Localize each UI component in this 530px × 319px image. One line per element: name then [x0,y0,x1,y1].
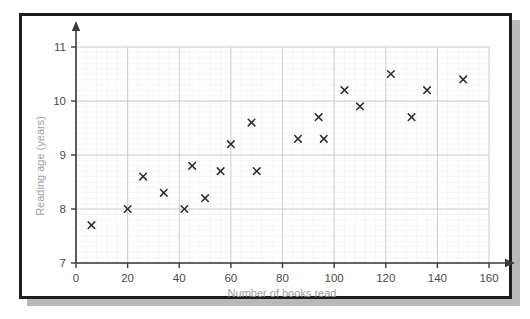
x-tick-label: 60 [224,272,237,284]
x-tick-label: 120 [376,272,395,284]
y-tick-label: 10 [53,95,66,107]
y-tick-label: 9 [60,149,66,161]
y-axis-title: Reading age (years) [34,116,46,216]
scatter-plot: 020406080100120140160 7891011 Number of … [22,16,515,302]
x-tick-label: 140 [428,272,447,284]
y-tick-label: 8 [60,203,66,215]
screenshot-canvas: 020406080100120140160 7891011 Number of … [0,0,530,319]
figure-frame: 020406080100120140160 7891011 Number of … [19,13,512,299]
x-tick-label: 20 [121,272,134,284]
x-tick-label: 40 [173,272,186,284]
x-tick-label: 100 [325,272,344,284]
axis-ticks [71,47,489,268]
x-tick-label: 80 [276,272,289,284]
x-axis-title: Number of books read [228,287,337,299]
x-tick-label: 0 [73,272,79,284]
chart-svg: 020406080100120140160 7891011 Number of … [22,16,515,302]
x-axis-tick-labels: 020406080100120140160 [73,272,499,284]
y-axis-tick-labels: 7891011 [53,41,66,269]
y-tick-label: 7 [60,257,66,269]
y-tick-label: 11 [54,41,66,53]
x-tick-label: 160 [479,272,498,284]
